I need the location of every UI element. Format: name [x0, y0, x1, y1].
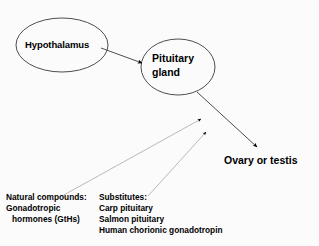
- natural-compounds-line-1: Gonadotropic: [6, 203, 87, 214]
- pituitary-label-line-2: gland: [152, 65, 194, 79]
- pituitary-label: Pituitary gland: [152, 51, 194, 80]
- natural-compounds-block: Natural compounds: Gonadotropic hormones…: [6, 192, 87, 225]
- substitutes-block: Substitutes: Carp pituitary Salmon pitui…: [99, 192, 223, 236]
- pituitary-label-line-1: Pituitary: [152, 52, 194, 64]
- arrow-substitutes-to-axis: [148, 132, 206, 196]
- substitutes-line-3: Human chorionic gonadotropin: [99, 225, 223, 236]
- natural-compounds-heading: Natural compounds:: [6, 192, 87, 203]
- diagram-root: Hypothalamus Pituitary gland Ovary or te…: [0, 0, 319, 246]
- arrow-hypothalamus-to-pituitary: [101, 48, 142, 63]
- arrow-natural-compounds-to-axis: [62, 119, 201, 196]
- arrow-pituitary-to-gonad: [197, 92, 257, 147]
- natural-compounds-line-2: hormones (GtHs): [6, 214, 87, 225]
- substitutes-line-2: Salmon pituitary: [99, 214, 223, 225]
- hypothalamus-label: Hypothalamus: [25, 39, 89, 51]
- substitutes-heading: Substitutes:: [99, 192, 223, 203]
- substitutes-line-1: Carp pituitary: [99, 203, 223, 214]
- gonad-target-label: Ovary or testis: [224, 154, 298, 167]
